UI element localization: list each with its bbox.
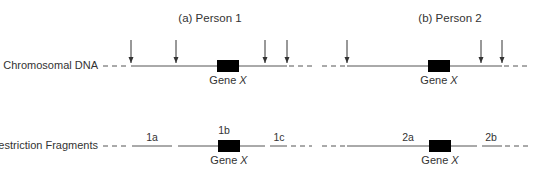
restriction-site-arrow-icon [263,40,268,63]
gene-x-label: Gene X [420,74,457,86]
fragment-label-1c: 1c [273,131,284,143]
gene-x-box [428,60,450,72]
gene-x-label: Gene X [421,154,458,166]
gene-x-box [429,140,451,152]
restriction-site-arrow-icon [500,40,505,63]
gene-x-box [218,140,240,152]
restriction-site-arrow-icon [345,40,350,63]
gene-x-label: Gene X [209,74,246,86]
fragment-label-2a: 2a [402,131,414,143]
fragment-label-1a: 1a [146,131,158,143]
person-2-restriction-fragments [322,140,530,152]
gene-x-label: Gene X [210,154,247,166]
restriction-site-arrow-icon [285,40,290,63]
rflp-diagram: (a) Person 1 (b) Person 2 Chromosomal DN… [0,0,536,171]
restriction-site-arrow-icon [174,40,179,63]
fragment-label-2b: 2b [485,131,497,143]
restriction-site-arrow-icon [479,40,484,63]
person-1-chromosomal-dna [103,40,312,72]
gene-x-box [217,60,239,72]
restriction-site-arrow-icon [129,40,134,63]
person-2-chromosomal-dna [322,40,530,72]
fragment-label-1b: 1b [218,124,230,136]
